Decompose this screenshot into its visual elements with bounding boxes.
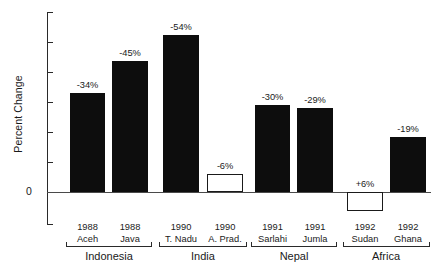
group-label-nepal: Nepal	[246, 250, 342, 262]
group-label-africa: Africa	[338, 250, 434, 262]
x-tick-site: A. Prad.	[199, 234, 251, 246]
bar-1991-sarlahi	[255, 105, 290, 192]
group-rule-end-tick-indonesia	[151, 242, 152, 247]
bar-1992-sudan	[347, 192, 383, 211]
group-label-india: India	[155, 250, 251, 262]
group-label-indonesia: Indonesia	[61, 250, 157, 262]
x-tick-site: Ghana	[382, 234, 434, 246]
bar-value-1992-ghana: -19%	[382, 124, 434, 134]
bar-1988-java	[112, 61, 148, 192]
x-tick-year: 1991	[289, 222, 341, 234]
bar-value-1988-aceh: -34%	[62, 80, 113, 90]
x-tick-site: Java	[104, 234, 156, 246]
x-tick-label-1988-java: 1988 Java	[104, 222, 156, 245]
group-rule-indonesia	[66, 246, 152, 247]
group-rule-nepal	[251, 246, 337, 247]
group-rule-india	[159, 246, 247, 247]
group-rule-end-tick-africa	[429, 242, 430, 247]
x-tick-label-1992-ghana: 1992 Ghana	[382, 222, 434, 245]
bar-value-1990-a-prad: -6%	[199, 161, 251, 171]
x-tick-year: 1988	[104, 222, 156, 234]
bar-1992-ghana	[390, 137, 426, 192]
bar-value-1992-sudan: +6%	[339, 179, 391, 189]
bar-1990-a-prad	[207, 174, 243, 192]
x-tick-year: 1992	[382, 222, 434, 234]
bar-1988-aceh	[70, 93, 105, 192]
group-rule-africa	[343, 246, 430, 247]
bar-1991-jumla	[297, 108, 333, 192]
bar-1990-t-nadu	[163, 35, 199, 192]
x-tick-year: 1990	[199, 222, 251, 234]
group-rule-end-tick-nepal	[336, 242, 337, 247]
x-tick-label-1991-jumla: 1991 Jumla	[289, 222, 341, 245]
x-tick-site: Jumla	[289, 234, 341, 246]
bar-value-1991-jumla: -29%	[289, 95, 341, 105]
group-rule-end-tick-india	[246, 242, 247, 247]
bar-value-1990-t-nadu: -54%	[155, 22, 207, 32]
bar-value-1988-java: -45%	[104, 48, 156, 58]
bar-chart: Percent Change 0 -34% -45% -54% -6% -30%…	[0, 0, 434, 269]
x-tick-label-1990-a-prad: 1990 A. Prad.	[199, 222, 251, 245]
